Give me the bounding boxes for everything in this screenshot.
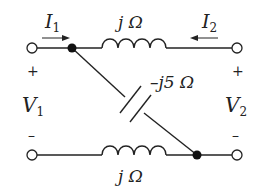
- terminal-left-bottom: [27, 150, 37, 160]
- v2-minus: –: [232, 127, 239, 143]
- v2-label: V2: [225, 93, 247, 119]
- terminal-right-top: [232, 43, 242, 53]
- bottom-inductor-label: j Ω: [114, 166, 143, 186]
- top-inductor: [102, 39, 166, 48]
- capacitor-plate-2: [130, 95, 151, 122]
- capacitor-plate-1: [120, 86, 141, 113]
- i1-label: I1: [44, 10, 60, 35]
- circuit-diagram: I1 I2 + V1 – + V2 – j Ω j Ω –j5 Ω: [0, 0, 260, 196]
- i2-label: I2: [201, 10, 217, 35]
- node-top-left: [68, 44, 77, 53]
- i1-arrowhead-icon: [62, 35, 70, 41]
- v1-label: V1: [22, 93, 44, 119]
- terminal-right-bottom: [232, 150, 242, 160]
- bottom-inductor: [102, 146, 166, 155]
- diagonal-wire-upper: [72, 48, 125, 97]
- top-inductor-label: j Ω: [114, 12, 143, 32]
- v2-plus: +: [232, 63, 244, 79]
- node-bottom-right: [193, 151, 202, 160]
- v1-minus: –: [28, 127, 35, 143]
- capacitor-label: –j5 Ω: [150, 72, 194, 92]
- terminal-left-top: [27, 43, 37, 53]
- v1-plus: +: [27, 63, 39, 79]
- i2-arrowhead-icon: [190, 35, 198, 41]
